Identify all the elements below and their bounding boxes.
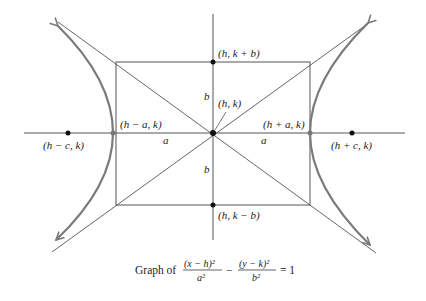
left-vertex-point xyxy=(111,131,116,136)
label-a-left: a xyxy=(163,134,169,146)
asymptote-positive-slope xyxy=(52,22,370,252)
hyperbola-diagram: (h, k + b) (h, k − b) (h, k) (h − a, k) … xyxy=(0,0,426,301)
caption-denominator-1: a² xyxy=(197,272,206,283)
label-b-top: b xyxy=(204,90,210,102)
caption-equation: Graph of (x − h)² a² − (y − k)² b² = 1 xyxy=(135,258,295,283)
center-point xyxy=(210,130,216,136)
label-a-right: a xyxy=(261,134,267,146)
top-covertex-point xyxy=(211,60,216,65)
label-b-bottom: b xyxy=(204,163,210,175)
left-focus-point xyxy=(66,131,71,136)
asymptote-negative-slope xyxy=(58,22,376,253)
caption-denominator-2: b² xyxy=(252,272,261,283)
label-top-covertex: (h, k + b) xyxy=(218,47,260,60)
label-left-focus: (h − c, k) xyxy=(43,139,84,152)
caption-numerator-2: (y − k)² xyxy=(239,258,270,270)
right-focus-point xyxy=(350,131,355,136)
label-left-vertex: (h − a, k) xyxy=(120,118,162,131)
right-vertex-point xyxy=(308,131,313,136)
caption-minus: − xyxy=(226,264,233,276)
bottom-covertex-point xyxy=(211,203,216,208)
label-center: (h, k) xyxy=(218,97,242,110)
caption-numerator-1: (x − h)² xyxy=(184,258,216,270)
caption-prefix: Graph of xyxy=(135,264,176,277)
label-right-focus: (h + c, k) xyxy=(331,139,372,152)
label-bottom-covertex: (h, k − b) xyxy=(218,209,260,222)
label-right-vertex: (h + a, k) xyxy=(263,118,305,131)
caption-equals: = 1 xyxy=(280,264,295,276)
